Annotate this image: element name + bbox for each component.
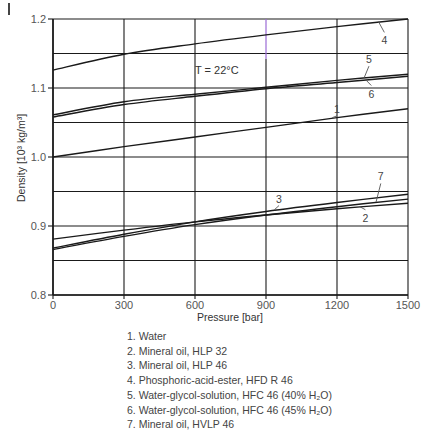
legend-item: 4. Phosphoric-acid-ester, HFD R 46 (127, 373, 332, 388)
temperature-annotation: T = 22°C (195, 64, 239, 76)
x-tick-label: 0 (50, 299, 56, 311)
x-tick-label: 900 (257, 299, 275, 311)
y-tick-label: 1.0 (31, 151, 46, 163)
x-tick-label: 600 (186, 299, 204, 311)
x-tick-label: 1200 (325, 299, 349, 311)
curve-label-6: 6 (368, 88, 374, 100)
curve-label-3: 3 (276, 193, 282, 205)
curve-label-7: 7 (378, 170, 384, 182)
curve-label-1: 1 (334, 103, 340, 115)
x-axis-label: Pressure [bar] (197, 311, 263, 323)
density-pressure-chart: 0.80.91.01.11.2030060090012001500 123456… (0, 0, 435, 330)
axis-ticks: 0.80.91.01.11.2030060090012001500 (31, 13, 421, 311)
y-tick-label: 1.2 (31, 13, 46, 25)
y-tick-label: 0.8 (31, 289, 46, 301)
series-line-2 (53, 203, 408, 239)
y-tick-label: 1.1 (31, 82, 46, 94)
gridlines (53, 19, 408, 295)
legend-item: 7. Mineral oil, HVLP 46 (127, 417, 332, 432)
curve-label-5: 5 (366, 53, 372, 65)
series-line-4 (53, 19, 408, 70)
series-line-1 (53, 109, 408, 157)
series-line-6 (53, 76, 408, 117)
legend-item: 6. Water-glycol-solution, HFC 46 (45% H₂… (127, 403, 332, 418)
x-tick-label: 300 (115, 299, 133, 311)
y-tick-label: 0.9 (31, 220, 46, 232)
y-axis-label: Density [10³ kg/m³] (15, 114, 27, 202)
legend: 1. Water 2. Mineral oil, HLP 32 3. Miner… (127, 329, 332, 432)
x-tick-label: 1500 (396, 299, 420, 311)
legend-item: 3. Mineral oil, HLP 46 (127, 358, 332, 373)
legend-item: 1. Water (127, 329, 332, 344)
curve-label-4: 4 (381, 34, 387, 46)
legend-item: 2. Mineral oil, HLP 32 (127, 344, 332, 359)
curve-label-2: 2 (362, 212, 368, 224)
legend-item: 5. Water-glycol-solution, HFC 46 (40% H₂… (127, 388, 332, 403)
